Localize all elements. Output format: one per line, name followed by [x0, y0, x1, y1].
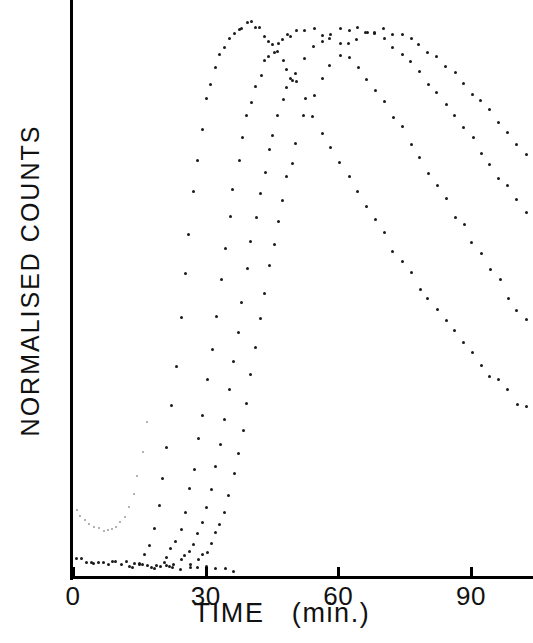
- data-point: [285, 86, 288, 89]
- data-point: [264, 171, 267, 174]
- data-point: [339, 27, 342, 30]
- y-axis-label: NORMALISED COUNTS: [0, 0, 62, 560]
- data-point: [237, 331, 240, 334]
- data-point: [233, 472, 236, 475]
- data-point: [224, 567, 227, 570]
- data-point: [197, 437, 200, 440]
- data-point: [153, 527, 156, 530]
- data-point: [291, 79, 294, 82]
- data-point: [220, 278, 223, 281]
- data-point: [417, 43, 420, 46]
- data-point: [211, 348, 214, 351]
- data-point: [133, 562, 136, 565]
- data-point: [175, 365, 178, 368]
- data-point: [255, 216, 258, 219]
- data-point: [499, 278, 502, 281]
- data-point: [119, 521, 121, 523]
- data-point: [497, 177, 500, 180]
- data-point: [165, 556, 168, 559]
- data-point: [506, 388, 509, 391]
- data-point: [128, 565, 131, 568]
- data-point: [472, 136, 475, 139]
- data-point: [525, 405, 528, 408]
- data-point: [489, 268, 492, 271]
- data-point: [107, 529, 109, 531]
- data-point: [128, 506, 130, 508]
- data-point: [148, 544, 151, 547]
- data-point: [462, 82, 465, 85]
- data-point: [210, 542, 213, 545]
- data-point: [206, 551, 209, 554]
- data-point: [232, 570, 235, 573]
- data-point: [171, 566, 174, 569]
- data-point: [223, 46, 226, 49]
- data-point: [356, 190, 359, 193]
- data-point: [506, 131, 509, 134]
- data-point: [392, 116, 395, 119]
- data-point: [480, 252, 483, 255]
- data-point: [125, 560, 128, 563]
- data-point: [282, 59, 285, 62]
- data-point: [187, 233, 190, 236]
- data-point: [159, 565, 162, 568]
- x-axis-tick: [470, 567, 473, 578]
- data-point: [401, 53, 404, 56]
- data-point: [471, 93, 474, 96]
- data-point: [436, 184, 439, 187]
- data-point: [97, 561, 100, 564]
- data-point: [525, 318, 528, 321]
- data-point: [436, 308, 439, 311]
- data-point: [285, 68, 288, 71]
- data-point: [228, 37, 231, 40]
- data-point: [98, 527, 100, 529]
- data-point: [328, 64, 331, 67]
- x-axis-tick: [205, 567, 208, 578]
- data-point: [196, 532, 199, 535]
- data-point: [240, 301, 243, 304]
- data-point: [453, 329, 456, 332]
- data-point: [339, 54, 342, 57]
- data-point: [374, 89, 377, 92]
- data-point: [143, 553, 146, 556]
- data-point: [356, 26, 359, 29]
- data-point: [218, 523, 221, 526]
- data-point: [383, 100, 386, 103]
- data-point: [88, 523, 90, 525]
- data-point: [245, 402, 248, 405]
- data-point: [273, 243, 276, 246]
- data-point: [427, 172, 430, 175]
- data-point: [193, 468, 196, 471]
- data-point: [271, 43, 274, 46]
- data-point: [488, 375, 491, 378]
- data-point: [179, 568, 182, 571]
- data-point: [240, 27, 243, 30]
- data-point: [141, 563, 144, 566]
- data-point: [426, 297, 429, 300]
- data-point: [454, 71, 457, 74]
- data-point: [103, 530, 105, 532]
- data-point: [146, 564, 149, 567]
- data-point: [188, 487, 191, 490]
- data-point: [339, 42, 342, 45]
- data-point: [268, 148, 271, 151]
- data-point: [383, 231, 386, 234]
- data-point: [401, 33, 404, 36]
- data-point: [453, 114, 456, 117]
- data-point: [168, 565, 171, 568]
- data-point: [249, 240, 252, 243]
- data-point: [366, 31, 369, 34]
- data-point: [355, 38, 358, 41]
- data-point: [470, 241, 473, 244]
- data-point: [201, 128, 204, 131]
- data-point: [196, 566, 199, 569]
- data-point: [276, 50, 279, 53]
- data-point: [246, 21, 249, 24]
- data-point: [348, 56, 351, 59]
- data-point: [249, 373, 252, 376]
- data-point: [263, 59, 266, 62]
- data-point: [294, 72, 297, 75]
- data-point: [364, 31, 367, 34]
- data-point: [373, 31, 376, 34]
- data-point: [401, 125, 404, 128]
- data-point: [107, 563, 110, 566]
